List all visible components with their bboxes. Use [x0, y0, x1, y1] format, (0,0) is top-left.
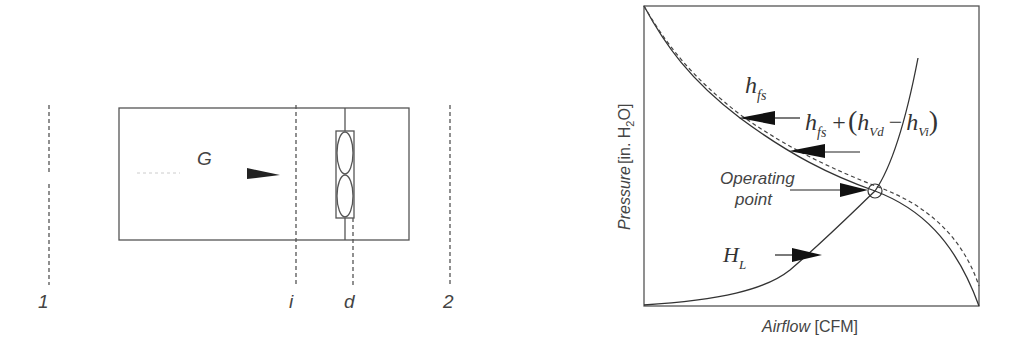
y-axis-label: Pressure[in. H2O] [616, 104, 636, 230]
station-1-label: 1 [38, 291, 49, 312]
label-hl: HL [722, 242, 746, 272]
flow-label: G [197, 148, 212, 169]
label-operating-point-line2: point [734, 190, 773, 209]
plot-frame [644, 6, 979, 306]
arrow-op-icon [840, 183, 868, 197]
station-i-label: i [289, 291, 294, 312]
station-2-label: 2 [442, 291, 454, 312]
x-axis-label: Airflow [CFM] [761, 318, 858, 335]
figure-canvas: G 1 i d 2 hfs hfs [0, 0, 1035, 355]
fan-curve-dashed [644, 6, 979, 286]
label-operating-point-line1: Operating [720, 169, 795, 188]
duct-schematic: G 1 i d 2 [38, 105, 454, 312]
label-hfs-plus-velocity: hfs+(hVd−hVi) [805, 105, 938, 140]
fan-curve-hfs [644, 6, 979, 306]
fan-system-chart: hfs hfs+(hVd−hVi) Operating point HL Air… [616, 6, 979, 335]
label-hfs: hfs [745, 72, 767, 103]
arrow-hl-icon [792, 248, 822, 262]
station-d-label: d [344, 291, 356, 312]
flow-arrow-icon [247, 168, 280, 179]
arrow-hfs-icon [739, 111, 775, 125]
